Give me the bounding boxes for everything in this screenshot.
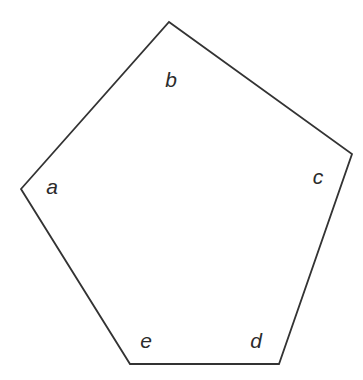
angle-label-c: c — [313, 166, 324, 187]
pentagon-outline — [21, 22, 352, 364]
diagram-canvas: a b c d e — [0, 0, 363, 380]
angle-label-a: a — [46, 176, 58, 197]
angle-label-d: d — [250, 330, 262, 351]
angle-label-e: e — [140, 330, 152, 351]
angle-label-b: b — [165, 69, 177, 90]
